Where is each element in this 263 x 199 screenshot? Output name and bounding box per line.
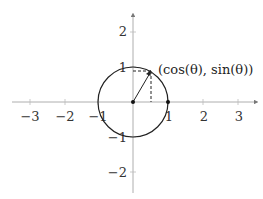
radius-vector: [133, 73, 150, 102]
y-tick-label: −2: [108, 165, 127, 180]
origin-point: [131, 100, 135, 104]
x-tick-label: −3: [20, 109, 39, 124]
x-tick-label: 1: [165, 109, 173, 124]
x-tick-label: 3: [235, 109, 243, 124]
x-tick-label: 2: [200, 109, 208, 124]
y-tick-label: −1: [108, 130, 127, 145]
point-label: (cos(θ), sin(θ)): [158, 62, 253, 77]
y-tick-label: 2: [119, 24, 127, 39]
x-tick-label: −2: [55, 109, 74, 124]
point-1-0: [166, 100, 170, 104]
unit-circle-diagram: −3 −2 −1 1 2 3 2 1 −1 −2 (cos(θ), sin(θ)…: [0, 0, 263, 199]
